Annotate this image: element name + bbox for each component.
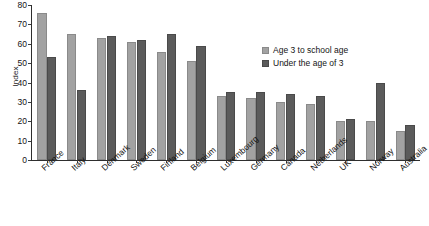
bar <box>366 121 375 160</box>
bar <box>37 13 46 160</box>
bar <box>167 34 176 160</box>
y-axis-ticks: 01020304050607080 <box>0 0 30 226</box>
bar-group <box>366 5 385 160</box>
bar <box>306 104 315 160</box>
y-tick-label: 40 <box>18 79 27 88</box>
bar-group <box>127 5 146 160</box>
bar-group <box>97 5 116 160</box>
y-tick-label: 30 <box>18 98 27 107</box>
bar <box>196 46 205 160</box>
y-tick-label: 70 <box>18 20 27 29</box>
bar-group <box>37 5 56 160</box>
bar <box>187 61 196 160</box>
legend-swatch-icon <box>262 47 269 54</box>
y-tick-label: 60 <box>18 40 27 49</box>
legend-label: Age 3 to school age <box>273 46 348 55</box>
y-tick-label: 80 <box>18 1 27 10</box>
bar-group <box>276 5 295 160</box>
bar <box>376 83 385 161</box>
bar-group <box>67 5 86 160</box>
bar <box>107 36 116 160</box>
legend-label: Under the age of 3 <box>273 59 343 68</box>
y-tick-label: 20 <box>18 117 27 126</box>
y-tick-label: 0 <box>22 156 27 165</box>
bar <box>137 40 146 160</box>
bar <box>97 38 106 160</box>
y-tick-label: 50 <box>18 59 27 68</box>
bar-group <box>306 5 325 160</box>
legend-swatch-icon <box>262 60 269 67</box>
bar <box>127 42 136 160</box>
bar-group <box>157 5 176 160</box>
legend-item: Under the age of 3 <box>262 57 348 69</box>
bar <box>67 34 76 160</box>
bar-group <box>396 5 415 160</box>
bar-group <box>187 5 206 160</box>
bar <box>157 52 166 161</box>
chart-legend: Age 3 to school ageUnder the age of 3 <box>262 44 348 70</box>
y-tick-label: 10 <box>18 137 27 146</box>
bar <box>47 57 56 160</box>
legend-item: Age 3 to school age <box>262 44 348 56</box>
bar-group <box>217 5 236 160</box>
bar <box>77 90 86 160</box>
plot-area <box>32 5 420 160</box>
bar <box>217 96 226 160</box>
bar <box>396 131 405 160</box>
